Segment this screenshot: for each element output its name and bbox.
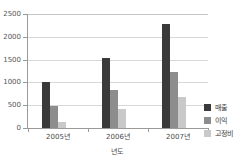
legend-item: 매출 <box>204 101 233 114</box>
legend-label: 고정비 <box>215 130 233 138</box>
x-axis-tick <box>88 128 89 132</box>
x-axis-tick <box>28 128 29 132</box>
bar <box>178 97 186 128</box>
x-axis-title: 년도 <box>27 148 207 156</box>
legend-swatch <box>204 117 211 124</box>
y-axis-label: 2000 <box>3 33 21 40</box>
bar <box>170 72 178 128</box>
bar <box>42 82 50 128</box>
y-axis-tick <box>23 37 28 38</box>
y-axis-label: 1000 <box>3 79 21 86</box>
chart-legend: 매출이익고정비 <box>204 101 233 140</box>
bar <box>102 58 110 128</box>
bar <box>58 122 66 128</box>
bar <box>162 24 170 128</box>
bar <box>118 109 126 128</box>
x-axis-label: 2006년 <box>106 133 130 141</box>
bar <box>50 106 58 128</box>
x-axis-tick <box>148 128 149 132</box>
legend-item: 고정비 <box>204 127 233 140</box>
bar <box>110 90 118 128</box>
legend-item: 이익 <box>204 114 233 127</box>
y-axis-label: 1500 <box>3 56 21 63</box>
plot-area: 050010001500200025002005년2006년2007년 <box>27 14 208 129</box>
x-axis-label: 2005년 <box>46 133 70 141</box>
y-axis-label: 2500 <box>3 11 21 18</box>
legend-label: 이익 <box>215 117 227 125</box>
gridline <box>28 82 208 83</box>
y-axis-label: 0 <box>17 125 21 132</box>
y-axis-tick <box>23 105 28 106</box>
bar-chart: 050010001500200025002005년2006년2007년 년도 매… <box>0 0 246 164</box>
gridline <box>28 14 208 15</box>
x-axis-label: 2007년 <box>166 133 190 141</box>
gridline <box>28 37 208 38</box>
y-axis-label: 500 <box>8 102 21 109</box>
gridline <box>28 60 208 61</box>
legend-swatch <box>204 130 211 137</box>
y-axis-tick <box>23 82 28 83</box>
legend-label: 매출 <box>215 104 227 112</box>
y-axis-tick <box>23 14 28 15</box>
chart-title <box>6 0 126 7</box>
y-axis-tick <box>23 60 28 61</box>
legend-swatch <box>204 104 211 111</box>
